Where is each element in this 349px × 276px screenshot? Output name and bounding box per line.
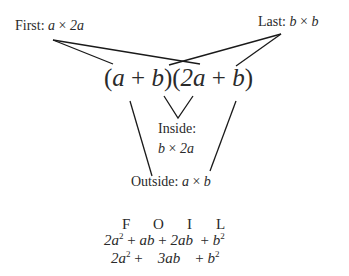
exponent: 2 — [119, 231, 124, 241]
outside-line-right — [210, 101, 236, 171]
last-term1: b — [290, 14, 297, 29]
plus-sign: + — [200, 232, 208, 248]
term-b-1: b — [151, 64, 164, 91]
simplified-term-1: 2a — [111, 250, 126, 266]
first-label: First: a × 2a — [15, 18, 84, 34]
exponent: 2 — [126, 249, 131, 259]
plus-sign: + — [134, 250, 142, 266]
binomial-product-expression: (a + b)(2a + b) — [104, 64, 253, 92]
outside-label: Outside: a × b — [131, 174, 211, 190]
simplified-term-3: b — [207, 250, 215, 266]
plus-sign: + — [206, 64, 233, 91]
term-2a: 2a — [181, 64, 206, 91]
simplified-term-2: 3ab — [158, 250, 181, 266]
inside-label: Inside: — [158, 121, 196, 137]
last-line-to-b2 — [236, 34, 281, 66]
simplified-sum-row: 2a2 + 3ab + b2 — [111, 250, 219, 267]
first-term2: 2a — [70, 18, 84, 33]
exponent: 2 — [215, 249, 220, 259]
plus-sign: + — [195, 250, 203, 266]
expanded-sum-row: 2a2 + ab + 2ab + b2 — [104, 232, 225, 249]
exponent: 2 — [220, 231, 225, 241]
outside-term1: a — [182, 174, 189, 189]
outside-label-text: Outside: — [131, 174, 182, 189]
first-label-text: First: — [15, 18, 48, 33]
expanded-term-3: 2ab — [170, 232, 193, 248]
times-sign: × — [297, 14, 312, 29]
paren-close-2: ) — [245, 64, 253, 91]
paren-open-2: ( — [172, 64, 180, 91]
last-label-text: Last: — [258, 14, 290, 29]
inside-label-text: Inside: — [158, 121, 196, 136]
times-sign: × — [189, 174, 204, 189]
foil-o: O — [153, 216, 164, 233]
last-term2: b — [311, 14, 318, 29]
expanded-term-2: ab — [139, 232, 154, 248]
term-a: a — [112, 64, 125, 91]
inside-term1: b — [158, 141, 165, 156]
plus-sign: + — [158, 232, 166, 248]
first-line-to-2a — [53, 40, 200, 64]
last-label: Last: b × b — [258, 14, 318, 30]
inside-v-lines — [164, 96, 193, 118]
first-line-to-a — [53, 40, 113, 64]
plus-sign: + — [127, 232, 135, 248]
times-sign: × — [55, 18, 70, 33]
foil-i: I — [187, 216, 192, 233]
times-sign: × — [165, 141, 180, 156]
term-b-2: b — [232, 64, 245, 91]
outside-term2: b — [204, 174, 211, 189]
inside-product: b × 2a — [158, 141, 194, 157]
expanded-term-1: 2a — [104, 232, 119, 248]
inside-term2: 2a — [180, 141, 194, 156]
plus-sign: + — [125, 64, 152, 91]
last-line-to-b1 — [169, 34, 281, 65]
outside-line-left — [130, 101, 152, 176]
